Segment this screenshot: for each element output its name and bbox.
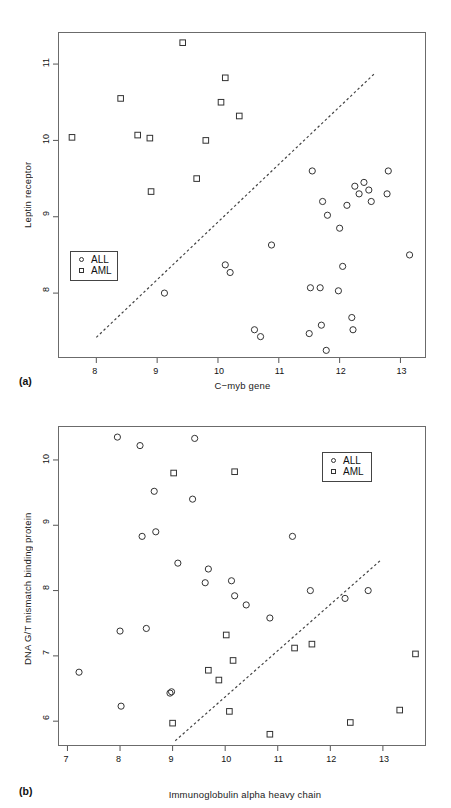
legend-b: ALL AML	[322, 452, 372, 482]
y-tick-label: 10	[41, 454, 51, 464]
legend-label-aml: AML	[88, 265, 112, 276]
legend-label-aml: AML	[340, 466, 364, 477]
y-tick-label: 8	[41, 585, 51, 590]
square-marker-icon	[327, 469, 340, 474]
x-tick-label: 7	[63, 754, 68, 764]
panel-b: DNA G/T mismatch binding protein Immunog…	[0, 404, 451, 808]
y-tick-label: 8	[41, 287, 51, 292]
y-tick-label: 7	[41, 650, 51, 655]
legend-label-all: ALL	[88, 254, 109, 265]
panel-a: Leptin receptor C−myb gene (a) ALL AML 8…	[0, 0, 451, 404]
y-tick-label: 6	[41, 715, 51, 720]
x-tick-label: 9	[153, 366, 158, 376]
x-tick-label: 9	[169, 754, 174, 764]
x-tick-label: 13	[396, 366, 406, 376]
legend-row-all-b: ALL	[327, 455, 367, 466]
y-axis-label-b: DNA G/T mismatch binding protein	[22, 474, 34, 704]
x-tick-label: 10	[221, 754, 231, 764]
legend-label-all: ALL	[340, 455, 361, 466]
y-tick-label: 10	[41, 134, 51, 144]
legend-a: ALL AML	[70, 251, 118, 281]
x-tick-label: 12	[336, 366, 346, 376]
x-tick-label: 8	[92, 366, 97, 376]
y-axis-label-a: Leptin receptor	[22, 120, 34, 270]
legend-row-aml-a: AML	[75, 265, 113, 276]
panel-label-a: (a)	[19, 375, 32, 387]
y-tick-label: 9	[41, 211, 51, 216]
legend-row-all-a: ALL	[75, 254, 113, 265]
x-tick-label: 10	[214, 366, 224, 376]
y-tick-label: 11	[41, 58, 51, 67]
panel-label-b: (b)	[19, 785, 32, 797]
legend-row-aml-b: AML	[327, 466, 367, 477]
x-tick-label: 12	[326, 754, 336, 764]
y-tick-label: 9	[41, 519, 51, 524]
circle-marker-icon	[75, 257, 88, 262]
circle-marker-icon	[327, 458, 340, 463]
plot-frame-a	[58, 32, 426, 358]
x-tick-label: 11	[275, 366, 284, 376]
x-axis-label-a: C−myb gene	[150, 380, 335, 391]
x-tick-label: 8	[116, 754, 121, 764]
square-marker-icon	[75, 268, 88, 273]
x-axis-label-b: Immunoglobulin alpha heavy chain	[130, 789, 360, 800]
x-tick-label: 11	[274, 754, 283, 764]
x-tick-label: 13	[379, 754, 389, 764]
